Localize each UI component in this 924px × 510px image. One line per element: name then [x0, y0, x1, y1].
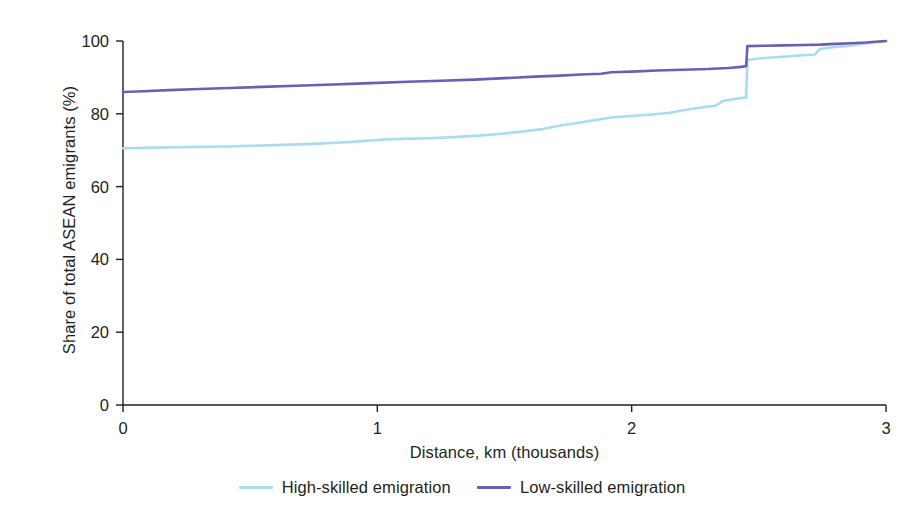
legend-label-high-skilled: High-skilled emigration — [282, 478, 451, 497]
chart-legend: High-skilled emigration Low-skilled emig… — [0, 478, 924, 497]
y-axis-ticks: 020406080100 — [81, 32, 123, 414]
y-tick-label: 20 — [91, 323, 109, 341]
y-tick-label: 60 — [91, 178, 109, 196]
y-tick-label: 80 — [91, 105, 109, 123]
x-tick-label: 2 — [627, 419, 636, 437]
y-tick-label: 0 — [100, 396, 109, 414]
x-tick-label: 1 — [373, 419, 382, 437]
x-tick-label: 3 — [881, 419, 890, 437]
legend-label-low-skilled: Low-skilled emigration — [520, 478, 685, 497]
data-series-group — [123, 41, 886, 148]
axis-lines — [123, 41, 886, 405]
series-line-low-skilled-emigration — [123, 41, 886, 92]
chart-figure: Share of total ASEAN emigrants (%) 02040… — [0, 0, 924, 510]
legend-swatch-icon-low-skilled — [477, 486, 511, 489]
plot-area: 020406080100 0123 — [0, 0, 924, 510]
y-tick-label: 100 — [81, 32, 109, 50]
x-axis-ticks: 0123 — [118, 405, 890, 437]
legend-item-low-skilled: Low-skilled emigration — [477, 478, 685, 497]
y-tick-label: 40 — [91, 250, 109, 268]
x-axis-title: Distance, km (thousands) — [123, 443, 886, 462]
legend-item-high-skilled: High-skilled emigration — [239, 478, 451, 497]
series-line-high-skilled-emigration — [123, 41, 886, 148]
legend-swatch-icon-high-skilled — [239, 486, 273, 489]
x-tick-label: 0 — [118, 419, 127, 437]
